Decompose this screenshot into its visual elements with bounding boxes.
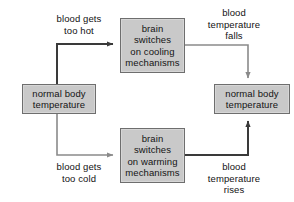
connector-hot-path: [57, 44, 113, 84]
node-normal-body-temperature-end: normal body temperature: [214, 84, 290, 114]
edge-label-blood-temperature-rises: blood temperature rises: [196, 161, 272, 196]
connector-rises-path: [185, 121, 248, 155]
connector-falls-path: [185, 45, 248, 78]
node-brain-switches-on-cooling-mechanisms: brain switches on cooling mechanisms: [120, 18, 185, 73]
node-brain-switches-on-warming-mechanisms: brain switches on warming mechanisms: [120, 128, 185, 183]
edge-label-blood-temperature-falls: blood temperature falls: [196, 7, 272, 42]
thermoregulation-flowchart: normal body temperature brain switches o…: [0, 0, 294, 202]
edge-label-blood-gets-too-hot: blood gets too hot: [44, 13, 114, 36]
node-normal-body-temperature-start: normal body temperature: [22, 84, 96, 114]
connector-cold-path: [57, 114, 113, 155]
edge-label-blood-gets-too-cold: blood gets too cold: [44, 161, 114, 184]
